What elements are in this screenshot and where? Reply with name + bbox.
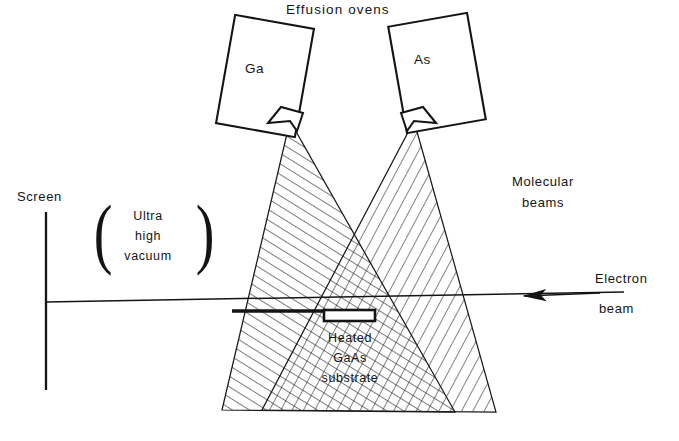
molecular-beams-label-line2: beams	[493, 194, 593, 211]
molecular-beam-cones	[222, 121, 496, 412]
vacuum-paren-close: )	[196, 194, 215, 272]
vacuum-label-line3: vacuum	[110, 248, 186, 265]
molecular-beams-label-line1: Molecular	[493, 173, 593, 190]
vacuum-label-line2: high	[110, 228, 186, 245]
substrate-label-line3: substrate	[298, 370, 402, 387]
electron-beam-label-line1: Electron	[595, 270, 648, 287]
substrate-label-line1: Heated	[300, 330, 400, 347]
gallium-oven-label: Ga	[245, 60, 264, 78]
vacuum-label-line1: Ultra	[110, 208, 186, 225]
arsenic-oven-label: As	[414, 51, 431, 69]
screen-label: Screen	[17, 188, 62, 205]
figure-title: Effusion ovens	[286, 1, 390, 19]
substrate-label-line2: GaAs	[300, 350, 400, 367]
mbe-diagram: Effusion ovens Ga As Screen ( ) Ultra hi…	[0, 0, 679, 441]
electron-beam-label-line2: beam	[599, 300, 634, 317]
